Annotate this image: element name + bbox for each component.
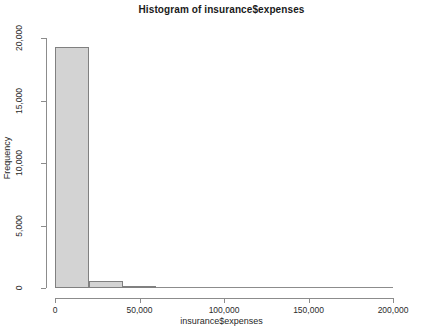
y-axis-tick (41, 101, 46, 102)
x-axis-tick (55, 298, 56, 303)
y-axis-tick-label: 20,000 (14, 25, 24, 51)
y-axis-tick (41, 288, 46, 289)
y-axis-tick-label: 15,000 (14, 88, 24, 114)
y-axis-tick (41, 226, 46, 227)
x-axis-tick-label: 0 (53, 305, 58, 315)
x-axis-tick (309, 298, 310, 303)
y-axis-tick-label: 10,000 (14, 150, 24, 176)
y-axis-tick (41, 163, 46, 164)
y-axis-tick-label: 0 (14, 286, 24, 291)
x-axis-tick (224, 298, 225, 303)
x-axis-tick (393, 298, 394, 303)
histogram-bar (55, 47, 89, 288)
plot-area (47, 28, 443, 288)
x-axis-tick-label: 100,000 (209, 305, 240, 315)
x-axis-title: insurance$expenses (0, 316, 443, 326)
histogram-bar (123, 286, 157, 288)
y-axis-title: Frequency (0, 0, 14, 335)
chart-title: Histogram of insurance$expenses (0, 4, 443, 15)
y-axis-tick (41, 38, 46, 39)
x-axis-tick (140, 298, 141, 303)
x-axis-tick-label: 50,000 (127, 305, 153, 315)
histogram-bar (89, 281, 123, 289)
histogram-plot: Histogram of insurance$expenses Frequenc… (0, 0, 443, 335)
x-axis-tick-label: 150,000 (293, 305, 324, 315)
x-axis-tick-label: 200,000 (378, 305, 409, 315)
y-axis-title-label: Frequency (2, 137, 12, 180)
y-axis-tick-label: 5,000 (14, 215, 24, 236)
